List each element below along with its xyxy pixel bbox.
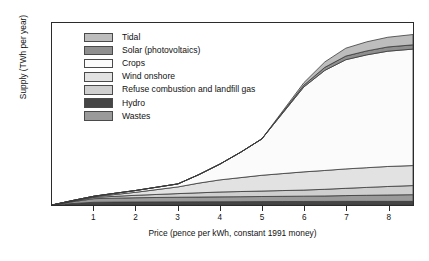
y-axis: Supply (TWh per year) 050100150200250300	[0, 0, 51, 206]
legend-item-label: Wind onshore	[122, 72, 175, 81]
x-axis-tick-label: 8	[379, 213, 399, 222]
legend-swatch-icon	[84, 59, 113, 69]
legend-item: Wastes	[84, 110, 255, 123]
x-axis-tick-label: 4	[210, 213, 230, 222]
legend-item: Wind onshore	[84, 70, 255, 83]
x-axis-tick	[135, 206, 136, 211]
chart-legend: TidalSolar (photovoltaics)CropsWind onsh…	[84, 31, 255, 123]
legend-item-label: Solar (photovoltaics)	[122, 46, 200, 55]
legend-item: Crops	[84, 57, 255, 70]
legend-swatch-icon	[84, 98, 113, 108]
x-axis-tick	[304, 206, 305, 211]
x-axis-tick-label: 7	[336, 213, 356, 222]
legend-item: Solar (photovoltaics)	[84, 44, 255, 57]
x-axis-tick-label: 5	[252, 213, 272, 222]
legend-item-label: Wastes	[122, 112, 150, 121]
legend-item: Tidal	[84, 31, 255, 44]
chart-figure: Supply (TWh per year) 050100150200250300…	[0, 0, 429, 261]
legend-item-label: Tidal	[122, 33, 140, 42]
legend-swatch-icon	[84, 72, 113, 82]
x-axis-tick-label: 2	[125, 213, 145, 222]
x-axis-tick	[262, 206, 263, 211]
legend-swatch-icon	[84, 33, 113, 43]
legend-swatch-icon	[84, 46, 113, 56]
x-axis-title: Price (pence per kWh, constant 1991 mone…	[51, 228, 414, 238]
legend-swatch-icon	[84, 111, 113, 121]
x-axis-tick	[220, 206, 221, 211]
x-axis-tick	[93, 206, 94, 211]
x-axis-tick	[178, 206, 179, 211]
legend-swatch-icon	[84, 85, 113, 95]
legend-item: Hydro	[84, 96, 255, 109]
legend-item-label: Hydro	[122, 99, 145, 108]
x-axis-tick	[389, 206, 390, 211]
legend-item-label: Refuse combustion and landfill gas	[122, 85, 255, 94]
x-axis-tick-label: 3	[168, 213, 188, 222]
y-axis-title: Supply (TWh per year)	[18, 0, 28, 127]
legend-item-label: Crops	[122, 59, 145, 68]
legend-item: Refuse combustion and landfill gas	[84, 83, 255, 96]
x-axis-tick-label: 1	[83, 213, 103, 222]
x-axis-tick	[346, 206, 347, 211]
x-axis-tick-label: 6	[294, 213, 314, 222]
